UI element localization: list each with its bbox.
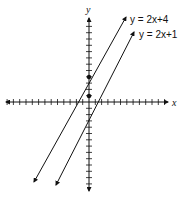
y-axis-label: y [85,4,91,15]
intercept-point-1 [87,94,91,98]
coordinate-plane: x y y = 2x+4 y = 2x+1 [0,0,191,198]
x-axis-label: x [171,97,177,108]
line1-label: y = 2x+4 [130,14,169,25]
intercept-point-4 [87,75,91,79]
line-y-2x-plus-4 [34,17,126,182]
line-y-2x-plus-1 [56,32,134,185]
line2-label: y = 2x+1 [139,29,178,40]
